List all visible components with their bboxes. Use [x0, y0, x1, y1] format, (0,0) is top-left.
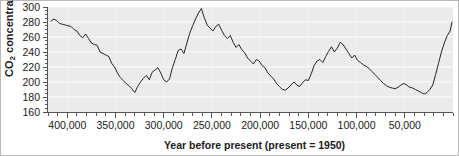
- y-tick-label: 200: [6, 77, 40, 87]
- co2-line-chart: [48, 7, 453, 112]
- y-tick-label: 220: [6, 62, 40, 72]
- y-tick-label: 160: [6, 107, 40, 117]
- plot-background: [48, 7, 453, 112]
- y-tick-label: 240: [6, 47, 40, 57]
- x-tick-label: 50,000: [373, 120, 437, 130]
- plot-area: [48, 7, 453, 112]
- y-tick-label: 300: [6, 2, 40, 12]
- y-tick-label: 260: [6, 32, 40, 42]
- y-tick-label: 180: [6, 92, 40, 102]
- y-tick-label: 280: [6, 17, 40, 27]
- chart-figure: CO2 concentration, ppmv 1601802002202402…: [0, 0, 459, 156]
- x-axis-label: Year before present (present = 1950): [1, 139, 459, 151]
